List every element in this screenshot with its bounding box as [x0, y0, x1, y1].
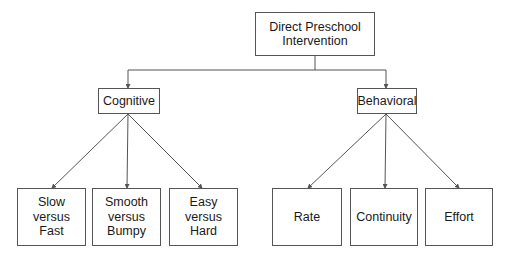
node-behavioral: Behavioral	[357, 88, 417, 114]
node-text: Rate	[294, 210, 320, 225]
root-node-direct-preschool-intervention: Direct Preschool Intervention	[255, 12, 375, 56]
node-text: versus	[33, 210, 70, 225]
node-text: Slow	[33, 195, 70, 210]
cognitive-label: Cognitive	[103, 94, 155, 109]
node-cognitive: Cognitive	[98, 88, 160, 114]
node-continuity: Continuity	[350, 188, 418, 246]
node-text: Easy	[185, 195, 222, 210]
root-label-line1: Direct Preschool	[269, 20, 361, 35]
node-smooth-versus-bumpy: Smooth versus Bumpy	[92, 188, 161, 246]
node-text: Fast	[33, 224, 70, 239]
root-label-line2: Intervention	[269, 34, 361, 49]
node-text: Hard	[185, 224, 222, 239]
node-slow-versus-fast: Slow versus Fast	[17, 188, 86, 246]
node-effort: Effort	[425, 188, 493, 246]
node-easy-versus-hard: Easy versus Hard	[169, 188, 238, 246]
node-rate: Rate	[272, 188, 342, 246]
behavioral-label: Behavioral	[357, 94, 416, 109]
node-text: Effort	[444, 210, 474, 225]
node-text: Bumpy	[105, 224, 148, 239]
node-text: versus	[105, 210, 148, 225]
node-text: versus	[185, 210, 222, 225]
node-text: Continuity	[356, 210, 412, 225]
node-text: Smooth	[105, 195, 148, 210]
